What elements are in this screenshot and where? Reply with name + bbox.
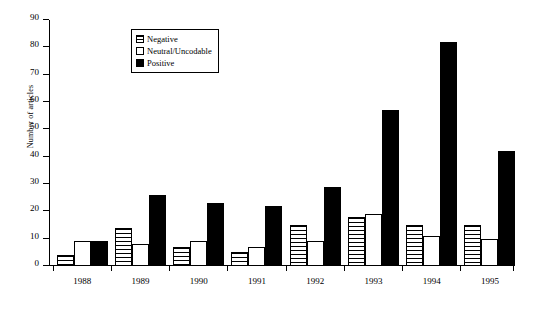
- y-axis-tick-label: 70: [30, 67, 39, 77]
- bar-group: [406, 20, 457, 266]
- bar-negative: [231, 252, 248, 266]
- legend-label-positive: Positive: [147, 59, 174, 68]
- x-axis-tick: [344, 266, 345, 271]
- y-axis-tick: 0: [43, 265, 49, 266]
- x-axis-tick: [169, 266, 170, 271]
- bar-negative: [173, 247, 190, 266]
- bar-positive: [498, 151, 515, 266]
- x-axis-tick: [513, 266, 514, 271]
- bar-neutral: [307, 241, 324, 266]
- bar-negative: [348, 217, 365, 266]
- x-axis-tick: [227, 266, 228, 271]
- y-axis-tick: 70: [43, 74, 49, 75]
- y-axis-tick-label: 10: [30, 231, 39, 241]
- bar-group: [464, 20, 515, 266]
- bar-negative: [406, 225, 423, 266]
- bar-positive: [382, 110, 399, 266]
- bar-negative: [57, 255, 74, 266]
- bar-positive: [207, 203, 224, 266]
- y-axis-tick: 50: [43, 128, 49, 129]
- y-axis-tick-label: 30: [30, 176, 39, 186]
- bar-chart: Number of articles 0102030405060708090 N…: [0, 0, 533, 313]
- bar-neutral: [74, 241, 91, 266]
- bar-neutral: [481, 239, 498, 266]
- y-axis-tick: 90: [43, 19, 49, 20]
- legend-item-negative: Negative: [136, 33, 212, 45]
- bar-neutral: [132, 244, 149, 266]
- bar-group: [231, 20, 282, 266]
- x-axis-label: 1995: [452, 276, 527, 286]
- x-axis-tick: [460, 266, 461, 271]
- x-axis-tick: [111, 266, 112, 271]
- legend-label-negative: Negative: [147, 35, 178, 44]
- x-axis-tick: [286, 266, 287, 271]
- plot-area: 0102030405060708090: [49, 20, 515, 266]
- y-axis-tick-label: 40: [30, 149, 39, 159]
- legend-swatch-negative-icon: [136, 35, 144, 43]
- y-axis-tick-label: 90: [30, 12, 39, 22]
- y-axis-tick: 10: [43, 238, 49, 239]
- y-axis-tick-label: 80: [30, 39, 39, 49]
- legend-item-positive: Positive: [136, 57, 212, 69]
- bar-neutral: [365, 214, 382, 266]
- bar-group: [57, 20, 108, 266]
- legend-swatch-positive-icon: [136, 59, 144, 67]
- bar-neutral: [190, 241, 207, 266]
- y-axis-tick: 60: [43, 101, 49, 102]
- bar-negative: [290, 225, 307, 266]
- bar-positive: [91, 241, 108, 266]
- bar-positive: [440, 42, 457, 266]
- legend-swatch-neutral-icon: [136, 47, 144, 55]
- legend-label-neutral: Neutral/Uncodable: [147, 47, 212, 56]
- bar-positive: [324, 187, 341, 266]
- y-axis-tick: 20: [43, 210, 49, 211]
- x-axis-tick: [402, 266, 403, 271]
- bar-group: [348, 20, 399, 266]
- y-axis-tick: 80: [43, 46, 49, 47]
- x-axis-tick: [53, 266, 54, 271]
- y-axis-tick-label: 60: [30, 94, 39, 104]
- y-axis-tick-label: 50: [30, 121, 39, 131]
- y-axis-line: [49, 20, 50, 266]
- bar-positive: [265, 206, 282, 266]
- bar-negative: [464, 225, 481, 266]
- y-axis-tick: 30: [43, 183, 49, 184]
- bar-negative: [115, 228, 132, 266]
- y-axis-tick-label: 0: [35, 258, 40, 268]
- bar-group: [290, 20, 341, 266]
- legend: Negative Neutral/Uncodable Positive: [131, 29, 219, 73]
- y-axis-tick-label: 20: [30, 203, 39, 213]
- y-axis-tick: 40: [43, 156, 49, 157]
- bar-positive: [149, 195, 166, 266]
- bar-neutral: [423, 236, 440, 266]
- legend-item-neutral: Neutral/Uncodable: [136, 45, 212, 57]
- bar-neutral: [248, 247, 265, 266]
